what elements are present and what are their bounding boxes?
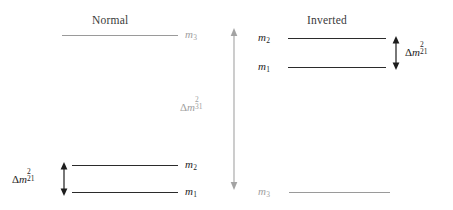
inverted-level-label-m3-sub: 3 <box>266 190 270 199</box>
inverted-gap-var-21: m <box>412 46 420 58</box>
normal-gap-label-21: Δm221 <box>12 172 36 185</box>
normal-level-label-m1: m1 <box>185 185 197 199</box>
inverted-level-label-m1-sub: 1 <box>266 65 270 74</box>
inverted-level-label-m1: m1 <box>258 60 270 74</box>
inverted-level-line-m1 <box>288 67 386 68</box>
center-gap-arrow-31 <box>228 28 240 190</box>
inverted-level-label-m1-base: m <box>258 60 266 72</box>
inverted-level-label-m3-base: m <box>258 185 266 197</box>
normal-panel-title: Normal <box>92 14 128 26</box>
center-gap-var-31: m <box>187 101 195 113</box>
normal-level-label-m1-sub: 1 <box>193 190 197 199</box>
normal-level-label-m1-base: m <box>185 185 193 197</box>
inverted-level-line-m2 <box>288 38 386 39</box>
inverted-level-label-m2-base: m <box>258 31 266 43</box>
center-gap-sub-31: 31 <box>195 102 203 111</box>
normal-level-label-m3-base: m <box>185 28 193 40</box>
normal-level-label-m3: m3 <box>185 28 197 42</box>
inverted-level-line-m3 <box>289 192 390 193</box>
normal-level-label-m3-sub: 3 <box>193 33 197 42</box>
normal-gap-var-21: m <box>19 173 27 185</box>
inverted-panel-title: Inverted <box>307 14 347 26</box>
normal-gap-sub-21: 21 <box>27 174 35 183</box>
inverted-level-label-m3: m3 <box>258 185 270 199</box>
inverted-gap-label-21: Δm221 <box>405 45 429 58</box>
inverted-level-label-m2-sub: 2 <box>266 36 270 45</box>
inverted-level-label-m2: m2 <box>258 31 270 45</box>
normal-level-line-m2 <box>72 165 178 166</box>
normal-level-label-m2: m2 <box>185 158 197 172</box>
center-gap-label-31: Δm231 <box>180 100 204 113</box>
inverted-gap-supsub-21: 221 <box>420 45 429 56</box>
mass-ordering-diagram: Normal m3 m2 m1 Δm221 Δm231 Inverted m2 <box>0 0 453 210</box>
inverted-gap-arrow-21 <box>390 36 402 70</box>
center-gap-supsub-31: 231 <box>195 100 204 111</box>
normal-level-line-m3 <box>62 35 178 36</box>
normal-gap-supsub-21: 221 <box>27 172 36 183</box>
normal-level-label-m2-sub: 2 <box>193 163 197 172</box>
normal-level-label-m2-base: m <box>185 158 193 170</box>
normal-level-line-m1 <box>72 192 178 193</box>
normal-gap-arrow-21 <box>58 162 70 196</box>
inverted-gap-sub-21: 21 <box>420 47 428 56</box>
